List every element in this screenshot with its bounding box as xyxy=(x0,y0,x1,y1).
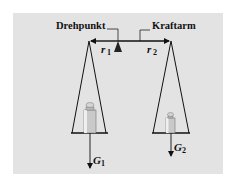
arm-label-r1: r 1 xyxy=(101,43,111,57)
fulcrum-icon xyxy=(114,41,122,52)
pivot-leader-line xyxy=(107,29,118,41)
arm-label-r2: r 2 xyxy=(147,43,157,57)
svg-text:G: G xyxy=(174,141,182,153)
svg-text:1: 1 xyxy=(107,48,111,57)
lever-diagram: Drehpunkt Kraftarm r 1 r 2 G 1 G 2 xyxy=(0,0,228,185)
force-label-g2: G 2 xyxy=(174,141,186,155)
svg-text:2: 2 xyxy=(182,146,186,155)
svg-text:G: G xyxy=(93,154,101,166)
pivot-label: Drehpunkt xyxy=(56,20,106,31)
svg-text:r: r xyxy=(147,43,152,55)
svg-text:r: r xyxy=(101,43,106,55)
svg-text:2: 2 xyxy=(153,48,157,57)
force-label-g1: G 1 xyxy=(93,154,105,168)
lever-arm-label: Kraftarm xyxy=(152,20,196,31)
weight-1-icon xyxy=(84,103,96,134)
svg-text:1: 1 xyxy=(101,159,105,168)
weight-2-icon xyxy=(166,113,175,134)
lever-arm-leader-line xyxy=(140,30,150,41)
